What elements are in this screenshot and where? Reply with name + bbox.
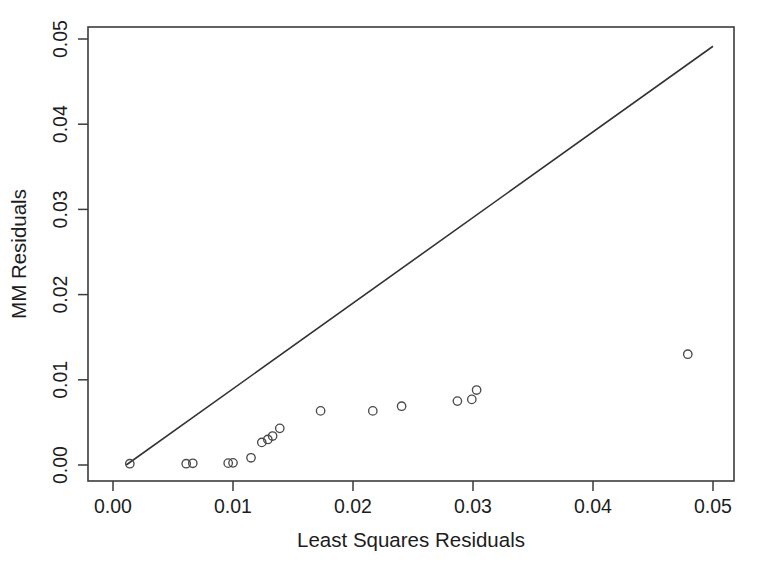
x-axis-title: Least Squares Residuals (297, 528, 525, 551)
scatter-plot-canvas: 0.000.010.020.030.040.05 0.000.010.020.0… (0, 0, 761, 573)
x-tick-label: 0.04 (574, 495, 612, 517)
y-tick-label: 0.00 (49, 446, 71, 484)
x-tick-label: 0.02 (334, 495, 372, 517)
y-tick-label: 0.02 (49, 276, 71, 314)
y-tick-label: 0.05 (49, 20, 71, 58)
y-tick-label: 0.04 (49, 105, 71, 143)
x-tick-label: 0.00 (94, 495, 132, 517)
y-tick-label: 0.01 (49, 361, 71, 399)
x-tick-label: 0.05 (694, 495, 732, 517)
plot-background (0, 0, 761, 573)
x-tick-label: 0.01 (214, 495, 252, 517)
y-tick-label: 0.03 (49, 190, 71, 228)
chart-figure: 0.000.010.020.030.040.05 0.000.010.020.0… (0, 0, 761, 573)
y-axis-title: MM Residuals (7, 189, 30, 319)
x-tick-label: 0.03 (454, 495, 492, 517)
